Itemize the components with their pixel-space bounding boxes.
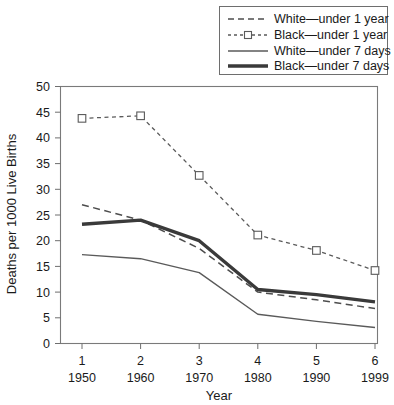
infant-mortality-line-chart: White—under 1 year Black—under 1 year Wh… [0,0,394,405]
y-tick-label: 25 [36,209,50,223]
x-tick-index-label: 5 [313,354,320,368]
data-point-marker [254,231,262,239]
y-tick-10: 10 [36,286,60,300]
x-tick-year-label: 1990 [302,371,330,385]
x-tick-index-label: 4 [254,354,261,368]
chart-legend: White—under 1 year Black—under 1 year Wh… [220,7,391,75]
x-tick-3: 3 1970 [185,344,213,386]
y-tick-50: 50 [36,80,60,94]
x-tick-year-label: 1960 [127,371,155,385]
y-tick-0: 0 [43,337,60,351]
x-tick-index-label: 3 [196,354,203,368]
x-tick-index-label: 2 [137,354,144,368]
data-point-marker [313,247,321,255]
y-tick-label: 35 [36,157,50,171]
x-tick-4: 4 1980 [244,344,272,386]
legend-label: Black—under 7 days [274,59,389,73]
x-tick-5: 5 1990 [302,344,330,386]
y-tick-45: 45 [36,106,60,120]
x-axis: 1 1950 2 1960 3 1970 4 1980 5 1990 [68,344,389,404]
x-tick-year-label: 1980 [244,371,272,385]
legend-label: White—under 1 year [274,12,389,26]
x-tick-6: 6 1999 [361,344,389,386]
y-tick-5: 5 [43,311,60,325]
plot-area-frame [61,87,378,344]
chart-container: White—under 1 year Black—under 1 year Wh… [0,0,394,405]
y-tick-label: 20 [36,234,50,248]
y-tick-label: 0 [43,337,50,351]
y-tick-20: 20 [36,234,60,248]
x-tick-1: 1 1950 [68,344,96,386]
x-tick-index-label: 6 [372,354,379,368]
y-axis-title: Deaths per 1000 Live Births [4,133,19,294]
y-tick-label: 5 [43,311,50,325]
x-tick-year-label: 1970 [185,371,213,385]
data-point-marker [195,172,203,180]
y-tick-label: 15 [36,260,50,274]
x-tick-index-label: 1 [79,354,86,368]
y-tick-25: 25 [36,209,60,223]
legend-label: White—under 7 days [274,44,391,58]
data-point-marker [78,115,86,123]
legend-label: Black—under 1 year [274,28,387,42]
x-axis-title: Year [206,388,233,403]
x-tick-2: 2 1960 [127,344,155,386]
y-tick-15: 15 [36,260,60,274]
y-tick-label: 50 [36,80,50,94]
y-tick-label: 10 [36,286,50,300]
y-tick-35: 35 [36,157,60,171]
x-tick-year-label: 1999 [361,371,389,385]
x-tick-year-label: 1950 [68,371,96,385]
data-point-marker [137,112,145,120]
y-tick-label: 45 [36,106,50,120]
data-point-marker [371,267,379,275]
y-tick-40: 40 [36,131,60,145]
y-tick-label: 40 [36,131,50,145]
y-tick-label: 30 [36,183,50,197]
y-axis: 0 5 10 15 20 25 [36,80,60,351]
y-tick-30: 30 [36,183,60,197]
legend-swatch-square-marker-icon [245,32,252,39]
